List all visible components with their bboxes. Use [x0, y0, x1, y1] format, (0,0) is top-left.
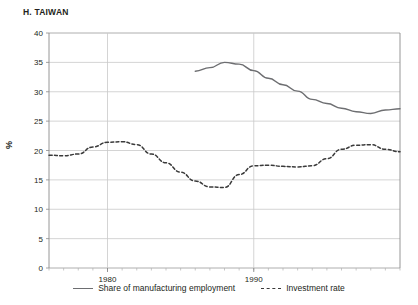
y-tick-label: 15	[34, 176, 43, 185]
y-tick-label: 0	[39, 264, 44, 273]
series-line-manufacturing-share	[195, 62, 400, 113]
y-tick-label: 30	[34, 88, 43, 97]
y-tick-label: 20	[34, 147, 43, 156]
y-tick-label: 10	[34, 205, 43, 214]
y-tick-label: 5	[39, 235, 44, 244]
y-tick-label: 35	[34, 58, 43, 67]
legend-item-share: Share of manufacturing employment	[73, 283, 235, 293]
legend-swatch-dashed-icon	[261, 288, 281, 289]
legend-swatch-solid-icon	[73, 288, 93, 289]
chart-panel: H. TAIWAN % 051015202530354019801990 Sha…	[0, 0, 418, 305]
chart-legend: Share of manufacturing employment Invest…	[0, 283, 418, 293]
legend-item-investment: Investment rate	[261, 283, 345, 293]
chart-plot-area: 051015202530354019801990	[0, 0, 418, 305]
legend-label-share: Share of manufacturing employment	[98, 283, 235, 293]
y-tick-label: 40	[34, 29, 43, 38]
legend-label-investment: Investment rate	[286, 283, 345, 293]
series-line-investment-rate	[49, 142, 400, 188]
y-tick-label: 25	[34, 117, 43, 126]
